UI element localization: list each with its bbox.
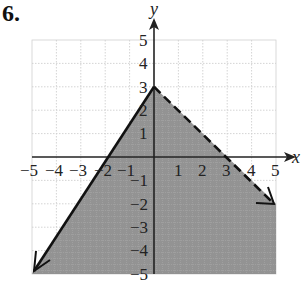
svg-text:5: 5 xyxy=(139,31,148,50)
svg-text:2: 2 xyxy=(139,101,148,120)
svg-text:−2: −2 xyxy=(94,161,112,180)
svg-text:1: 1 xyxy=(174,161,183,180)
svg-text:4: 4 xyxy=(139,54,148,73)
svg-text:−3: −3 xyxy=(130,218,148,237)
inequality-graph: y x −5 −4 −3 −2 −1 1 2 3 4 5 5 4 3 2 1 −… xyxy=(0,0,306,291)
svg-text:−4: −4 xyxy=(45,161,64,180)
svg-text:3: 3 xyxy=(222,161,231,180)
svg-text:−3: −3 xyxy=(69,161,87,180)
svg-text:5: 5 xyxy=(271,161,280,180)
svg-text:−5: −5 xyxy=(20,161,38,180)
svg-text:2: 2 xyxy=(198,161,207,180)
svg-text:−5: −5 xyxy=(130,265,148,284)
y-axis-label: y xyxy=(148,0,158,19)
svg-text:1: 1 xyxy=(139,124,148,143)
svg-text:−4: −4 xyxy=(130,241,149,260)
svg-text:−1: −1 xyxy=(130,171,148,190)
svg-text:3: 3 xyxy=(139,78,148,97)
x-axis-label: x xyxy=(291,147,300,167)
svg-text:4: 4 xyxy=(247,161,256,180)
svg-text:−2: −2 xyxy=(130,195,148,214)
